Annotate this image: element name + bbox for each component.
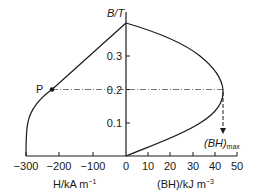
x-tick-label: 50 (231, 160, 243, 172)
x-ticks-left (26, 152, 93, 156)
x-axis-label-left: H/kA m−1 (53, 178, 97, 190)
x-tick-label: 40 (209, 160, 221, 172)
point-p-marker (50, 87, 55, 92)
x-axis-label-right: (BH)/kJ m−3 (157, 178, 214, 190)
y-tick-label: 0.3 (107, 50, 122, 62)
x-tick-label-zero: 0 (123, 160, 129, 172)
x-tick-label: −100 (81, 160, 106, 172)
x-tick-label: 10 (142, 160, 154, 172)
bh-chart: −300 −200 −100 0 10 20 30 40 50 0.1 0.2 … (0, 0, 254, 196)
x-tick-label: 20 (164, 160, 176, 172)
bhmax-arrowhead-icon (220, 128, 226, 134)
point-p-label: P (36, 83, 43, 95)
x-ticks-right (148, 152, 237, 156)
y-tick-label: 0.1 (107, 117, 122, 129)
x-tick-label: −200 (47, 160, 72, 172)
y-axis-label: B/T (107, 7, 125, 19)
x-tick-label: 30 (187, 160, 199, 172)
x-tick-label: −300 (14, 160, 39, 172)
bhmax-label: (BH)max (204, 137, 240, 150)
